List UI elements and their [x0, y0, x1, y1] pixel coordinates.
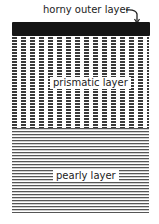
pearly-layer-label: pearly layer — [53, 170, 119, 182]
horny-outer-layer — [12, 22, 150, 36]
prismatic-layer-label: prismatic layer — [50, 77, 131, 89]
